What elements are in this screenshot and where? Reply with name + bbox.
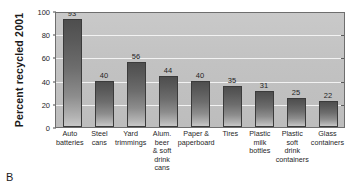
bar-value-label: 44 — [164, 66, 172, 75]
x-axis-label: Plasticsoftdrinkcontainers — [275, 130, 310, 164]
bar-value-label: 40 — [100, 71, 108, 80]
bar-slot: 56 — [120, 13, 152, 127]
x-axis-label-line: trimmings — [115, 139, 146, 148]
bar — [63, 19, 82, 127]
bar-value-label: 40 — [196, 71, 204, 80]
y-tick-label: 20 — [42, 100, 50, 109]
x-axis-label-line: cans — [148, 164, 176, 173]
x-axis-label: Steelcans — [85, 130, 115, 147]
x-axis-label-line: Tires — [217, 130, 245, 139]
y-tick-label: 80 — [42, 31, 50, 40]
y-axis-title: Percent recycled 2001 — [2, 12, 36, 128]
bar-value-label: 25 — [292, 88, 300, 97]
panel-letter: B — [6, 171, 13, 183]
bar-slot: 40 — [88, 13, 120, 127]
bar-value-label: 31 — [260, 81, 268, 90]
bar-value-label: 56 — [132, 52, 140, 61]
x-axis-label-line: batteries — [56, 139, 84, 148]
bar-slot: 44 — [152, 13, 184, 127]
y-tick-label: 40 — [42, 77, 50, 86]
bar-value-label: 93 — [68, 12, 76, 18]
x-axis-label-line: paperboard — [178, 139, 215, 148]
bar-slot: 40 — [184, 13, 216, 127]
x-axis-label: Autobatteries — [55, 130, 85, 147]
x-axis-label-line: cans — [86, 139, 114, 148]
y-tick-label: 0 — [46, 124, 50, 133]
bar-slot: 31 — [248, 13, 280, 127]
x-axis-label-line: bottles — [246, 147, 274, 156]
x-axis-labels: AutobatteriesSteelcansYardtrimmingsAlum.… — [55, 130, 345, 173]
x-axis-label-line: containers — [276, 156, 309, 165]
bar — [191, 81, 210, 127]
x-axis-label: Glasscontainers — [310, 130, 345, 147]
bar-series: 934056444035312522 — [56, 13, 344, 127]
y-axis-ticks: 020406080100 — [33, 12, 53, 128]
bar-slot: 22 — [312, 13, 344, 127]
y-tick-label: 60 — [42, 54, 50, 63]
bar — [127, 62, 146, 127]
y-axis-title-text: Percent recycled 2001 — [13, 13, 25, 128]
x-axis-label: Tires — [216, 130, 246, 139]
plot-area: 934056444035312522 — [55, 12, 345, 128]
bar — [287, 98, 306, 127]
bar-slot: 93 — [56, 13, 88, 127]
x-axis-label: Yardtrimmings — [114, 130, 147, 147]
bar-value-label: 35 — [228, 76, 236, 85]
bar — [95, 81, 114, 127]
bar-slot: 25 — [280, 13, 312, 127]
figure-panel-b: Percent recycled 2001 020406080100 93405… — [0, 0, 359, 191]
bar — [159, 76, 178, 127]
x-axis-label: Alum.beer& softdrinkcans — [147, 130, 177, 173]
bar — [319, 101, 338, 127]
bar-value-label: 22 — [324, 91, 332, 100]
bar-slot: 35 — [216, 13, 248, 127]
x-axis-label: Paper &paperboard — [177, 130, 216, 147]
bar — [223, 86, 242, 127]
x-axis-label-line: containers — [311, 139, 344, 148]
x-axis-label: Plasticmilkbottles — [245, 130, 275, 156]
bar — [255, 91, 274, 127]
y-tick-label: 100 — [37, 8, 50, 17]
